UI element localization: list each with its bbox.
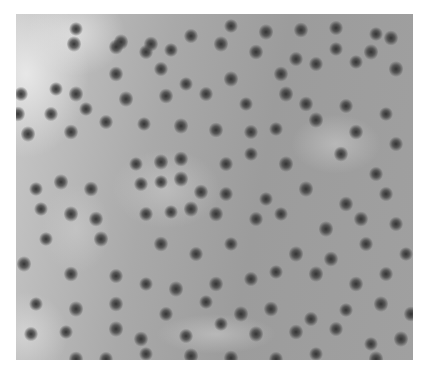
surface-feature: [319, 221, 333, 238]
surface-feature: [16, 106, 25, 122]
surface-feature: [324, 251, 338, 267]
surface-feature: [339, 303, 353, 317]
surface-feature: [174, 171, 188, 188]
surface-feature: [139, 45, 153, 60]
surface-feature: [209, 276, 223, 292]
surface-feature: [189, 247, 203, 262]
surface-feature: [139, 277, 153, 291]
surface-feature: [154, 154, 168, 171]
surface-feature: [249, 212, 263, 227]
surface-feature: [224, 19, 238, 33]
surface-feature: [184, 29, 198, 44]
bright-region: [291, 114, 381, 174]
surface-feature: [379, 187, 393, 202]
surface-feature: [64, 124, 78, 140]
surface-feature: [84, 181, 98, 197]
surface-feature: [94, 231, 108, 248]
surface-feature: [309, 347, 323, 360]
surface-feature: [44, 107, 58, 122]
surface-feature: [16, 87, 28, 102]
surface-feature: [109, 321, 123, 338]
surface-feature: [99, 352, 113, 361]
surface-feature: [69, 86, 83, 103]
surface-feature: [137, 117, 151, 131]
surface-feature: [21, 126, 35, 143]
surface-feature: [69, 351, 83, 360]
surface-feature: [209, 206, 223, 222]
surface-feature: [154, 236, 168, 252]
surface-feature: [309, 57, 323, 72]
surface-feature: [64, 266, 78, 282]
surface-feature: [244, 272, 258, 287]
surface-feature: [154, 175, 168, 189]
surface-feature: [274, 207, 288, 221]
surface-feature: [109, 39, 123, 55]
surface-feature: [69, 301, 83, 318]
surface-feature: [289, 52, 303, 67]
surface-feature: [67, 36, 81, 53]
surface-feature: [394, 331, 408, 348]
surface-feature: [129, 157, 143, 171]
surface-feature: [184, 348, 198, 361]
surface-feature: [329, 42, 343, 56]
surface-feature: [379, 267, 393, 282]
surface-feature: [219, 187, 233, 202]
surface-feature: [29, 182, 43, 196]
surface-feature: [259, 24, 273, 41]
surface-feature: [339, 196, 353, 212]
surface-feature: [249, 326, 263, 343]
surface-feature: [349, 55, 363, 69]
surface-feature: [369, 27, 383, 41]
surface-feature: [364, 337, 378, 351]
surface-feature: [214, 36, 228, 53]
surface-feature: [64, 206, 78, 223]
surface-feature: [109, 269, 123, 284]
surface-feature: [399, 247, 413, 261]
surface-feature: [224, 350, 238, 360]
surface-feature: [29, 297, 43, 311]
surface-feature: [329, 322, 343, 337]
surface-feature: [269, 265, 283, 279]
surface-feature: [179, 77, 193, 91]
surface-feature: [199, 87, 213, 102]
surface-feature: [69, 22, 83, 36]
surface-feature: [389, 137, 403, 152]
surface-feature: [224, 71, 238, 88]
surface-feature: [159, 88, 173, 104]
surface-feature: [379, 107, 393, 121]
surface-feature: [349, 124, 363, 140]
surface-feature: [194, 184, 208, 200]
surface-feature: [309, 266, 323, 283]
surface-feature: [374, 296, 388, 313]
microscopy-image: [16, 14, 413, 360]
surface-feature: [174, 118, 188, 135]
surface-feature: [244, 147, 258, 161]
surface-feature: [279, 86, 293, 103]
surface-feature: [269, 352, 283, 361]
surface-feature: [299, 181, 313, 198]
surface-feature: [89, 211, 103, 227]
bright-region: [41, 184, 111, 274]
surface-feature: [59, 325, 73, 339]
surface-feature: [109, 66, 123, 82]
surface-feature: [309, 112, 323, 129]
surface-feature: [169, 281, 183, 298]
surface-feature: [119, 91, 133, 108]
surface-feature: [304, 312, 318, 327]
surface-feature: [164, 205, 178, 219]
surface-feature: [294, 22, 308, 38]
surface-feature: [404, 306, 413, 322]
surface-feature: [274, 66, 288, 82]
surface-feature: [54, 174, 68, 191]
surface-feature: [159, 307, 173, 322]
surface-feature: [39, 232, 53, 246]
surface-feature: [174, 151, 188, 167]
surface-feature: [389, 61, 403, 78]
surface-feature: [279, 156, 293, 173]
surface-feature: [224, 237, 238, 251]
surface-feature: [249, 44, 263, 60]
surface-feature: [214, 317, 228, 331]
surface-feature: [299, 96, 313, 112]
surface-feature: [339, 99, 353, 114]
surface-feature: [134, 331, 148, 347]
